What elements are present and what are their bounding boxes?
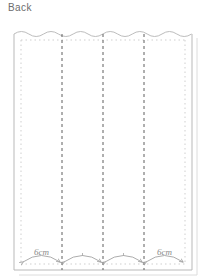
- fold-lines: [62, 34, 144, 270]
- measure-apex-ticks: [83, 253, 124, 256]
- measure-label-4: 6cm: [157, 247, 172, 257]
- measure-arc-2: [64, 256, 101, 263]
- seam-allowance-lines: [21, 40, 185, 264]
- measure-arc-3: [105, 256, 142, 263]
- paper-shadow: [19, 38, 197, 275]
- back-panel-diagram: 6cm 6cm: [0, 0, 208, 279]
- measure-label-1: 6cm: [34, 247, 49, 257]
- pattern-canvas: Back: [0, 0, 208, 279]
